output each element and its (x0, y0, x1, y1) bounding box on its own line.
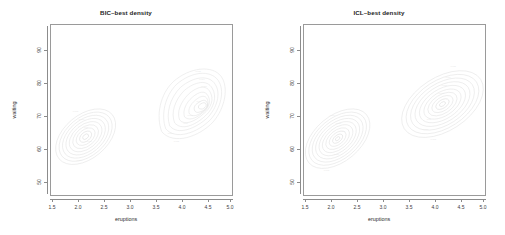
y-tick-bic-0 (44, 50, 47, 51)
svg-text:0.016: 0.016 (87, 140, 93, 142)
x-tick-icl-0 (305, 199, 306, 202)
x-tick-icl-5 (435, 199, 436, 202)
svg-text:0.006: 0.006 (334, 153, 340, 155)
x-tick-label-icl-5: 4.0 (432, 204, 439, 210)
contour-canvas-bic: 0.002 0.006 0.01 0.016 0.004 (51, 25, 232, 195)
x-axis-title-bic: eruptions (0, 216, 252, 222)
x-tick-bic-0 (52, 199, 53, 202)
x-tick-icl-6 (461, 199, 462, 202)
svg-text:0.012: 0.012 (439, 92, 445, 94)
y-tick-label-icl-3: 60 (289, 146, 295, 152)
svg-text:0.002: 0.002 (450, 65, 456, 67)
y-tick-bic-3 (44, 149, 47, 150)
density-plot-figure: BIC–best density 0.002 0.006 (0, 0, 505, 235)
x-tick-icl-7 (483, 199, 484, 202)
y-tick-label-bic-3: 60 (36, 146, 42, 152)
x-tick-bic-6 (208, 199, 209, 202)
x-tick-bic-4 (156, 199, 157, 202)
svg-text:0.008: 0.008 (201, 85, 207, 87)
x-tick-icl-2 (357, 199, 358, 202)
panel-bic: BIC–best density 0.002 0.006 (0, 0, 252, 235)
plot-frame-icl: 0.004 0.008 0.012 0.006 0.002 (303, 24, 486, 196)
svg-text:0.014: 0.014 (187, 114, 193, 116)
svg-text:0.004: 0.004 (445, 76, 451, 78)
y-axis-title-icl: waiting (264, 102, 270, 119)
y-tick-icl-3 (297, 149, 300, 150)
y-tick-label-bic-0: 90 (36, 47, 42, 53)
panel-title-bic: BIC–best density (0, 9, 252, 16)
x-tick-label-bic-2: 2.5 (101, 204, 108, 210)
y-tick-label-bic-4: 50 (36, 179, 42, 185)
contour-group-icl-cluster-long (390, 57, 485, 151)
svg-text:0.006: 0.006 (423, 128, 429, 130)
x-axis-title-icl: eruptions (253, 216, 505, 222)
svg-text:0.006: 0.006 (79, 118, 85, 120)
y-tick-icl-1 (297, 83, 300, 84)
y-axis-line-icl (300, 26, 301, 194)
x-tick-label-bic-3: 3.0 (127, 204, 134, 210)
x-tick-label-bic-0: 1.5 (49, 204, 56, 210)
x-tick-bic-2 (104, 199, 105, 202)
contour-canvas-icl: 0.004 0.008 0.012 0.006 0.002 (304, 25, 485, 195)
contour-group-bic-cluster-long (159, 69, 225, 139)
svg-text:0.002: 0.002 (195, 70, 201, 72)
x-tick-label-bic-7: 5.0 (227, 204, 234, 210)
x-tick-label-icl-0: 1.5 (302, 204, 309, 210)
y-tick-label-icl-4: 50 (289, 179, 295, 185)
svg-text:0.008: 0.008 (336, 122, 342, 124)
y-tick-label-icl-0: 90 (289, 47, 295, 53)
svg-text:0.002: 0.002 (174, 140, 180, 142)
y-tick-label-bic-1: 80 (36, 80, 42, 86)
y-tick-icl-0 (297, 50, 300, 51)
svg-text:0.008: 0.008 (441, 84, 447, 86)
x-tick-label-icl-1: 2.0 (328, 204, 335, 210)
plot-frame-bic: 0.002 0.006 0.01 0.016 0.004 (50, 24, 233, 196)
svg-text:0.004: 0.004 (330, 114, 336, 116)
svg-text:0.002: 0.002 (324, 169, 330, 171)
contour-labels-bic-cluster-short: 0.002 0.006 0.01 0.016 0.004 (73, 110, 93, 161)
x-tick-label-icl-6: 4.5 (458, 204, 465, 210)
svg-text:0.012: 0.012 (340, 130, 346, 132)
svg-text:0.01: 0.01 (84, 126, 89, 128)
y-tick-label-icl-2: 70 (289, 113, 295, 119)
svg-text:0.006: 0.006 (168, 132, 174, 134)
x-tick-icl-3 (383, 199, 384, 202)
svg-text:0.004: 0.004 (199, 78, 205, 80)
x-tick-label-icl-7: 5.0 (480, 204, 487, 210)
y-tick-label-icl-1: 80 (289, 80, 295, 86)
y-tick-label-bic-2: 70 (36, 113, 42, 119)
panel-title-icl: ICL–best density (253, 9, 505, 16)
panel-icl: ICL–best density 0.004 (253, 0, 505, 235)
x-tick-label-icl-2: 2.5 (354, 204, 361, 210)
y-tick-icl-2 (297, 116, 300, 117)
x-tick-label-icl-3: 3.0 (380, 204, 387, 210)
x-tick-label-bic-6: 4.5 (205, 204, 212, 210)
svg-text:0.002: 0.002 (73, 110, 79, 112)
x-tick-label-bic-4: 3.5 (153, 204, 160, 210)
svg-text:0.002: 0.002 (431, 138, 437, 140)
y-axis-line-bic (47, 26, 48, 194)
svg-text:0.004: 0.004 (77, 159, 83, 161)
contour-group-bic-cluster-short (51, 98, 126, 176)
y-tick-bic-1 (44, 83, 47, 84)
x-tick-label-icl-4: 3.5 (406, 204, 413, 210)
y-axis-title-bic: waiting (11, 102, 17, 119)
x-tick-bic-7 (230, 199, 231, 202)
x-tick-bic-5 (182, 199, 183, 202)
y-tick-icl-4 (297, 182, 300, 183)
x-tick-bic-1 (78, 199, 79, 202)
x-tick-icl-4 (409, 199, 410, 202)
y-tick-bic-2 (44, 116, 47, 117)
x-tick-label-bic-5: 4.0 (179, 204, 186, 210)
x-tick-icl-1 (331, 199, 332, 202)
x-tick-bic-3 (130, 199, 131, 202)
x-tick-label-bic-1: 2.0 (75, 204, 82, 210)
y-tick-bic-4 (44, 182, 47, 183)
contour-group-icl-cluster-short (304, 97, 381, 180)
